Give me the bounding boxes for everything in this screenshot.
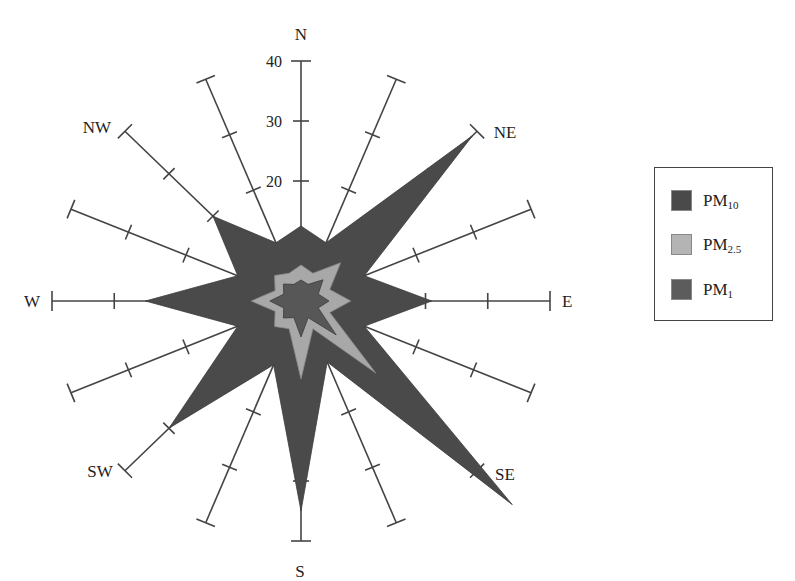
axis-tick [365,132,380,138]
axis-tick [365,464,380,470]
axis-tick [527,384,535,402]
legend-label-pm1: PM [703,280,728,299]
axis-tick [196,75,214,83]
legend-item-pm25: PM2.5 [671,234,741,255]
axis-tick [67,384,75,402]
direction-label-NE: NE [494,123,517,142]
legend: PM10 PM2.5 PM1 [654,167,773,321]
axis-tick [222,464,237,470]
axis-tick [67,200,75,218]
radial-tick-label: 40 [266,53,282,70]
radial-tick-label: 30 [266,113,282,130]
axis-tick [341,187,356,193]
axis-tick [246,187,261,193]
legend-label-pm10: PM [703,191,728,210]
direction-label-E: E [562,292,572,311]
direction-label-SW: SW [87,462,113,481]
axis-tick [527,200,535,218]
direction-label-NW: NW [83,118,112,137]
axis-tick [222,132,237,138]
legend-sub-pm25: 2.5 [728,243,742,255]
series-polygons [145,136,512,511]
axis-tick [196,519,214,527]
legend-item-pm1: PM1 [671,279,733,300]
direction-label-SE: SE [495,465,515,484]
legend-item-pm10: PM10 [671,190,739,211]
legend-sub-pm1: 1 [728,288,734,300]
direction-label-S: S [295,562,304,581]
axis-tick [387,519,405,527]
axis-tick [341,409,356,415]
direction-label-N: N [295,25,307,44]
legend-swatch-pm25 [671,234,692,255]
direction-label-W: W [24,292,41,311]
legend-swatch-pm1 [671,279,692,300]
legend-swatch-pm10 [671,190,692,211]
axis-tick [387,75,405,83]
axis-tick [246,409,261,415]
legend-sub-pm10: 10 [728,199,739,211]
legend-label-pm25: PM [703,235,728,254]
radial-tick-label: 20 [266,173,282,190]
